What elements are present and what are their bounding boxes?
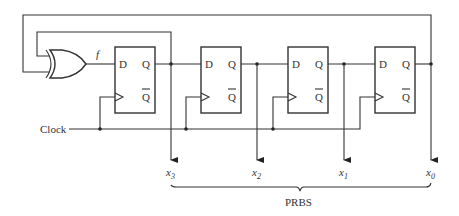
output-label-x0: x0 bbox=[425, 166, 435, 181]
d-pin-label: D bbox=[379, 58, 387, 70]
clock-label: Clock bbox=[40, 123, 67, 135]
xor-output-label: f bbox=[96, 48, 101, 60]
clock-branch-ff1 bbox=[273, 97, 288, 129]
q-pin-label: Q bbox=[142, 58, 150, 70]
prbs-circuit-diagram: f D Q Q D Q Q D Q Q D Q Q bbox=[0, 0, 459, 216]
d-pin-label: D bbox=[119, 58, 127, 70]
xor-gate bbox=[46, 50, 86, 78]
qbar-pin-label: Q bbox=[402, 91, 410, 103]
output-label-x2: x2 bbox=[251, 166, 261, 181]
prbs-label: PRBS bbox=[285, 196, 312, 208]
flip-flop-1: D Q Q bbox=[288, 47, 328, 113]
q-pin-label: Q bbox=[402, 58, 410, 70]
clock-branch-ff3 bbox=[100, 97, 115, 129]
junction-dot bbox=[271, 127, 275, 131]
d-pin-label: D bbox=[205, 58, 213, 70]
junction-dot bbox=[98, 127, 102, 131]
output-label-x1: x1 bbox=[338, 166, 348, 181]
prbs-brace bbox=[171, 183, 431, 191]
clock-branch-ff2 bbox=[186, 97, 201, 129]
junction-dot bbox=[184, 127, 188, 131]
q-pin-label: Q bbox=[228, 58, 236, 70]
output-label-x3: x3 bbox=[165, 166, 175, 181]
d-pin-label: D bbox=[292, 58, 300, 70]
flip-flop-0: D Q Q bbox=[375, 47, 415, 113]
qbar-pin-label: Q bbox=[142, 91, 150, 103]
flip-flop-2: D Q Q bbox=[201, 47, 241, 113]
q-pin-label: Q bbox=[315, 58, 323, 70]
flip-flop-3: D Q Q bbox=[115, 47, 155, 113]
qbar-pin-label: Q bbox=[315, 91, 323, 103]
qbar-pin-label: Q bbox=[228, 91, 236, 103]
